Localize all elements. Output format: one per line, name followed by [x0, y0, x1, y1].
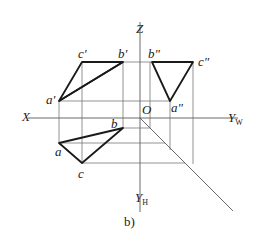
top-view-triangle: [59, 128, 123, 163]
point-label-c-double-prime: c": [198, 55, 209, 68]
point-label-c-prime: c': [78, 47, 87, 60]
point-label-a-prime: a': [46, 93, 55, 106]
figure-caption: b): [124, 215, 135, 228]
z-axis-label: Z: [136, 22, 143, 35]
projection-lines: [0, 0, 253, 240]
side-view-triangle: [152, 62, 193, 101]
axes: [28, 22, 238, 212]
point-label-a-double-prime: a": [171, 101, 183, 114]
yh-axis-label: YH: [135, 191, 148, 207]
point-label-b: b: [111, 117, 118, 130]
point-label-a: a: [55, 145, 62, 158]
x-axis-label: X: [22, 110, 30, 123]
yw-axis-label: YW: [228, 111, 243, 127]
point-label-b-prime: b': [118, 47, 127, 60]
orthographic-projection-diagram: Z X O YW YH a' b' c' a" b" c" a b c b): [0, 0, 253, 240]
point-label-b-double-prime: b": [148, 47, 160, 60]
origin-label: O: [142, 103, 151, 116]
point-label-c: c: [78, 167, 84, 180]
45-degree-line: [140, 118, 233, 211]
